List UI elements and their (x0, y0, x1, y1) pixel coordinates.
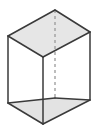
rectangular-prism-diagram (0, 0, 103, 138)
prism-figure-container (0, 0, 103, 138)
